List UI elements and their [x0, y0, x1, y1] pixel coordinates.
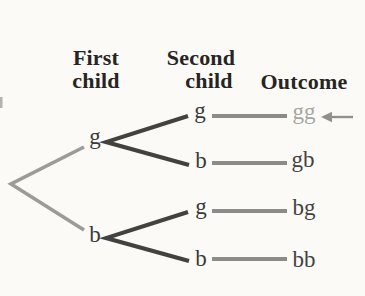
header-first-child-line1: First: [73, 45, 120, 70]
outcome-bg: bg: [293, 195, 317, 220]
outcome-bb: bb: [293, 247, 316, 272]
tree-diagram-canvas: First child Second child Outcome g b g b…: [0, 0, 365, 296]
header-second-child-line2: child: [185, 68, 232, 93]
header-outcome: Outcome: [261, 69, 348, 94]
node-second-child-g-after-g: g: [194, 98, 206, 123]
node-second-child-b-after-b: b: [195, 246, 207, 271]
probability-tree-diagram: First child Second child Outcome g b g b…: [0, 0, 365, 296]
header-second-child-line1: Second: [167, 45, 235, 70]
node-first-child-g: g: [89, 124, 101, 149]
node-first-child-b: b: [89, 222, 101, 247]
node-second-child-g-after-b: g: [195, 194, 207, 219]
outcome-gg-highlighted: gg: [293, 99, 317, 124]
outcome-gb: gb: [292, 147, 315, 172]
header-first-child-line2: child: [72, 68, 119, 93]
scan-edge-artifact: [0, 97, 3, 108]
node-second-child-b-after-g: b: [195, 148, 207, 173]
